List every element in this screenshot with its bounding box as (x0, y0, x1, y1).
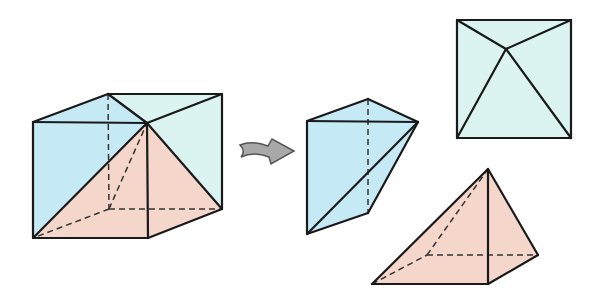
dissection-diagram (0, 0, 603, 300)
square-face (457, 20, 571, 138)
arrow-right-icon (240, 139, 294, 164)
diagram-canvas (0, 0, 603, 300)
top-view-square (457, 20, 571, 138)
prism-piece (307, 99, 418, 234)
visible-edge (307, 121, 418, 122)
visible-edge (33, 122, 147, 123)
pyramid-body (372, 169, 538, 284)
cube-with-pyramid (33, 94, 222, 238)
pyramid-piece (372, 169, 538, 284)
visible-edge (147, 123, 148, 238)
